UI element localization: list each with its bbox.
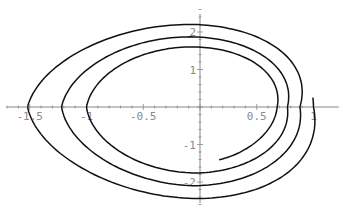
axes [6, 14, 339, 203]
spiral-plot: -1.5-1-0.50.5121-1-2 [0, 0, 342, 217]
x-tick-label: -0.5 [130, 110, 157, 123]
y-tick-label: -1 [183, 139, 196, 152]
x-tick-label: 0.5 [247, 110, 267, 123]
y-tick-label: -2 [183, 176, 196, 189]
x-tick-label: 1 [310, 110, 317, 123]
spiral-curve [28, 25, 315, 199]
y-tick-label: 1 [189, 64, 196, 77]
